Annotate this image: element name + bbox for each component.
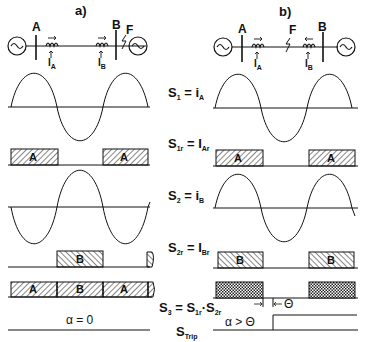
fault-icon — [286, 38, 290, 52]
fault-label: F — [289, 24, 296, 36]
s2r-partial — [147, 252, 154, 267]
s1r-block-label: A — [120, 152, 128, 163]
ct-a-current-label: IA — [48, 58, 56, 70]
bus-b-label: B — [112, 19, 121, 31]
bus-a-label: A — [32, 21, 41, 33]
arrow-right-icon — [48, 36, 56, 40]
fault-label: F — [126, 24, 133, 36]
s2r-block-label: B — [76, 254, 84, 265]
s1r-block-label: A — [234, 153, 242, 164]
ct-a-current-label: IA — [254, 59, 262, 71]
s3-partial — [148, 282, 155, 297]
signal-label-s1r: S1r = IAr — [168, 137, 210, 152]
s3-block-label: B — [76, 284, 84, 295]
fault-icon — [122, 35, 126, 49]
signal-label-s1: S1 = iA — [168, 86, 204, 101]
s3-block-label: A — [29, 284, 37, 295]
theta-arrow-right — [274, 302, 282, 306]
theta-label: Θ — [284, 298, 293, 310]
s1r-block-label: A — [29, 152, 37, 163]
signal-label-strip: STrip — [176, 325, 198, 340]
signal-label-s2r: S2r = IBr — [168, 241, 210, 256]
s2r-block-label: B — [236, 255, 244, 266]
s3-block-2-b — [309, 282, 355, 298]
arrow-right-icon — [254, 37, 262, 41]
trip-label-a: α = 0 — [66, 314, 93, 326]
arrow-right-icon — [98, 36, 106, 40]
panel-b-title: b) — [279, 5, 291, 18]
s1r-block-label: A — [327, 153, 335, 164]
s3-block-label: A — [120, 284, 128, 295]
bus-a-label: A — [238, 23, 247, 35]
ct-b-current-label: IB — [305, 59, 313, 71]
bus-b-label: B — [318, 21, 327, 33]
trip-step-b — [273, 315, 357, 330]
panel-a-title: a) — [75, 4, 87, 17]
network-diagram-b — [214, 32, 355, 62]
diagram-canvas — [0, 0, 367, 342]
ac-source-glyph — [11, 44, 23, 49]
signal-label-s2: S2 = iB — [168, 189, 204, 204]
trip-label-b: α > Θ — [225, 316, 255, 328]
signal-label-s3: S3 = S1r·S2r — [159, 301, 221, 316]
arrow-left-icon — [305, 37, 313, 41]
ct-b-current-label: IB — [98, 58, 106, 70]
theta-arrow-left — [254, 302, 262, 306]
s3-block-1-b — [216, 282, 263, 298]
s2r-block-label: B — [327, 255, 335, 266]
